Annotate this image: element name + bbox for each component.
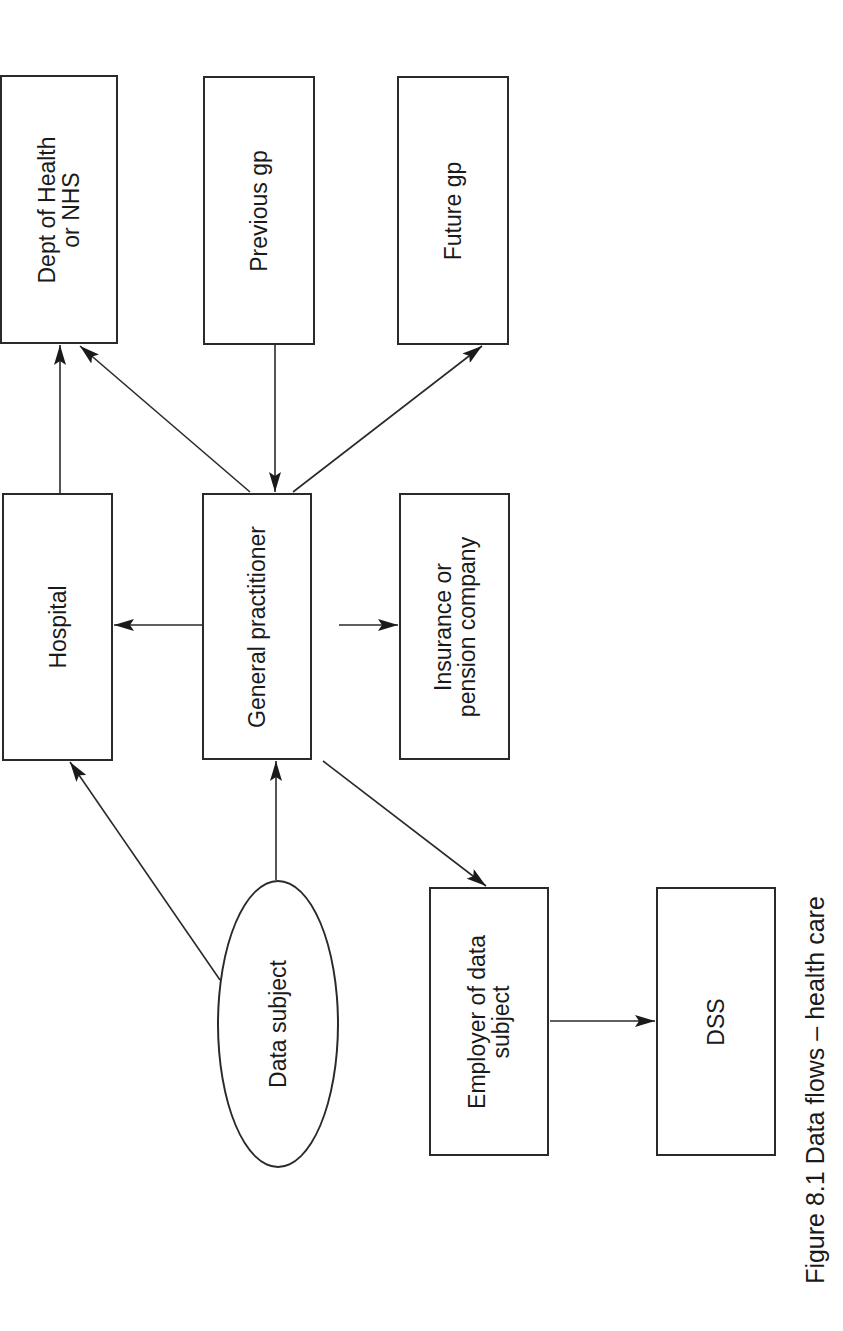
dept-health-label: Dept of Health or NHS — [35, 136, 83, 283]
data-subject-label: Data subject — [266, 960, 290, 1088]
dept-health-box: Dept of Health or NHS — [0, 75, 118, 344]
future-gp-box: Future gp — [397, 76, 509, 345]
employer-label: Employer of data subject — [465, 935, 513, 1109]
arrow-general_practitioner-to-employer — [323, 761, 486, 886]
insurance-box: Insurance or pension company — [399, 493, 510, 760]
future-gp-label: Future gp — [441, 161, 465, 259]
insurance-label: Insurance or pension company — [431, 536, 479, 716]
arrow-data_subject-to-hospital — [70, 762, 220, 980]
arrow-general_practitioner-to-future_gp — [293, 346, 482, 492]
previous-gp-label: Previous gp — [247, 150, 271, 271]
dss-label: DSS — [704, 998, 728, 1045]
general-practitioner-label: General practitioner — [245, 526, 269, 728]
general-practitioner-box: General practitioner — [202, 493, 312, 760]
hospital-box: Hospital — [2, 493, 113, 761]
data-flow-diagram: Dept of Health or NHS Previous gp Future… — [0, 0, 843, 1331]
employer-box: Employer of data subject — [429, 887, 549, 1156]
figure-caption: Figure 8.1 Data flows – health care — [801, 896, 830, 1284]
arrow-general_practitioner-to-dept_health — [80, 346, 250, 492]
previous-gp-box: Previous gp — [203, 76, 315, 345]
hospital-label: Hospital — [46, 585, 70, 668]
data-subject-ellipse: Data subject — [217, 880, 339, 1168]
dss-box: DSS — [656, 887, 776, 1156]
